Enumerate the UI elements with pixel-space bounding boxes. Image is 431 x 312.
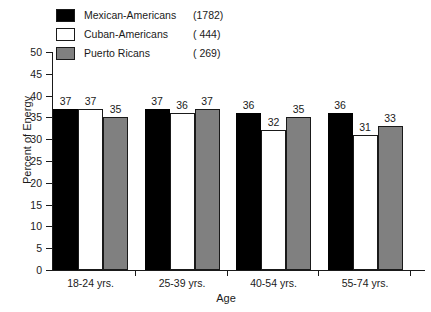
y-axis-tick xyxy=(46,74,52,75)
bar-value-label: 37 xyxy=(192,96,222,107)
legend-label: Cuban-Americans xyxy=(84,25,168,44)
x-axis-tick xyxy=(227,271,228,276)
bar-value-label: 32 xyxy=(259,117,289,128)
bar xyxy=(286,117,311,270)
legend-count: (1782) xyxy=(193,6,223,25)
legend-count: ( 444) xyxy=(193,25,220,44)
legend-item-mexican-americans: Mexican-Americans (1782) xyxy=(56,6,266,25)
y-axis-tick-label: 20 xyxy=(16,178,42,188)
y-axis-tick-label: 30 xyxy=(16,134,42,144)
bar xyxy=(78,109,103,270)
bar xyxy=(261,130,286,270)
bar-chart-figure: Mexican-Americans (1782) Cuban-Americans… xyxy=(0,0,431,312)
bar xyxy=(236,113,261,270)
y-axis-tick xyxy=(46,52,52,53)
y-axis-tick-label: 10 xyxy=(16,221,42,231)
x-axis-tick xyxy=(135,271,136,276)
legend-label: Mexican-Americans xyxy=(84,6,176,25)
bar-value-label: 33 xyxy=(375,113,405,124)
y-axis-tick xyxy=(46,139,52,140)
bar xyxy=(195,109,220,270)
y-axis-tick xyxy=(46,117,52,118)
y-axis-tick-label: 40 xyxy=(16,91,42,101)
legend-label: Puerto Ricans xyxy=(84,44,150,63)
y-axis-tick xyxy=(46,248,52,249)
bar xyxy=(353,135,378,270)
y-axis-tick-label: 35 xyxy=(16,112,42,122)
legend-swatch-icon xyxy=(56,47,75,60)
legend-swatch-icon xyxy=(56,28,75,41)
legend-item-cuban-americans: Cuban-Americans ( 444) xyxy=(56,25,266,44)
bar xyxy=(170,113,195,270)
x-axis-line xyxy=(52,270,425,271)
x-axis-tick-label: 18-24 yrs. xyxy=(51,277,131,289)
legend-swatch-icon xyxy=(56,9,75,22)
x-axis-tick-label: 40-54 yrs. xyxy=(234,277,314,289)
bar-value-label: 36 xyxy=(325,100,355,111)
y-axis-tick-label: 25 xyxy=(16,156,42,166)
x-axis-title: Age xyxy=(186,292,266,304)
bar-value-label: 36 xyxy=(234,100,264,111)
x-axis-tick-label: 25-39 yrs. xyxy=(142,277,222,289)
bar-value-label: 35 xyxy=(284,104,314,115)
x-axis-tick xyxy=(410,271,411,276)
legend-item-puerto-ricans: Puerto Ricans ( 269) xyxy=(56,44,266,63)
bar-value-label: 35 xyxy=(101,104,131,115)
y-axis-tick-label: 45 xyxy=(16,69,42,79)
y-axis-tick-label: 5 xyxy=(16,243,42,253)
y-axis-tick-label: 15 xyxy=(16,200,42,210)
bar xyxy=(378,126,403,270)
x-axis-tick-label: 55-74 yrs. xyxy=(325,277,405,289)
bar xyxy=(328,113,353,270)
y-axis-tick xyxy=(46,205,52,206)
legend-count: ( 269) xyxy=(193,44,220,63)
y-axis-tick-label: 50 xyxy=(16,47,42,57)
y-axis-tick-label: 0 xyxy=(16,265,42,275)
x-axis-tick xyxy=(318,271,319,276)
y-axis-tick xyxy=(46,226,52,227)
bar xyxy=(145,109,170,270)
chart-legend: Mexican-Americans (1782) Cuban-Americans… xyxy=(56,6,266,63)
y-axis-tick xyxy=(46,270,52,271)
bar xyxy=(53,109,78,270)
y-axis-tick xyxy=(46,183,52,184)
y-axis-tick xyxy=(46,161,52,162)
bar xyxy=(103,117,128,270)
